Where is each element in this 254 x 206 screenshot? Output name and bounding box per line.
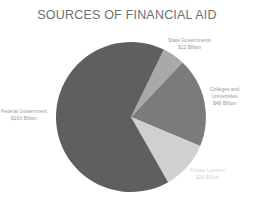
label-name: Federal Government: [1, 108, 47, 115]
label-private-lenders: Private Lenders $26 Billion: [190, 167, 225, 181]
label-value: $12 Billion: [168, 44, 211, 51]
label-value: $163 Billion: [1, 115, 47, 122]
label-federal-government: Federal Government $163 Billion: [1, 108, 47, 122]
label-colleges-universities: Colleges and Universities $48 Billion: [210, 86, 239, 107]
label-value: $26 Billion: [190, 174, 225, 181]
label-state-governments: State Governments $12 Billion: [168, 37, 211, 51]
label-value: $48 Billion: [210, 100, 239, 107]
label-name-2: Universities: [210, 93, 239, 100]
label-name: State Governments: [168, 37, 211, 44]
label-name: Private Lenders: [190, 167, 225, 174]
label-name: Colleges and: [210, 86, 239, 93]
